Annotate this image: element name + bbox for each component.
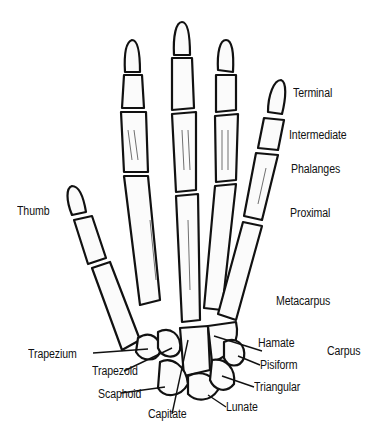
label-capitate: Capitate	[148, 407, 187, 421]
label-proximal: Proximal	[290, 206, 330, 220]
label-trapezoid: Trapezoid	[92, 364, 138, 378]
label-metacarpus: Metacarpus	[276, 294, 330, 308]
label-pisiform: Pisiform	[260, 358, 297, 372]
index-finger-bones	[121, 40, 160, 305]
hand-bones-diagram: Terminal Intermediate Phalanges Proximal…	[0, 0, 381, 440]
label-lunate: Lunate	[226, 400, 258, 414]
label-scaphoid: Scaphoid	[98, 387, 141, 401]
middle-finger-bones	[172, 22, 200, 322]
label-trapezium: Trapezium	[28, 347, 77, 361]
label-phalanges: Phalanges	[291, 162, 340, 176]
label-terminal: Terminal	[293, 86, 332, 100]
label-thumb: Thumb	[17, 204, 49, 218]
label-hamate: Hamate	[258, 336, 294, 350]
hand-skeleton-illustration	[0, 0, 381, 440]
carpal-bones	[136, 322, 244, 400]
label-intermediate: Intermediate	[289, 128, 347, 142]
label-triangular: Triangular	[254, 380, 300, 394]
label-carpus: Carpus	[327, 344, 361, 358]
